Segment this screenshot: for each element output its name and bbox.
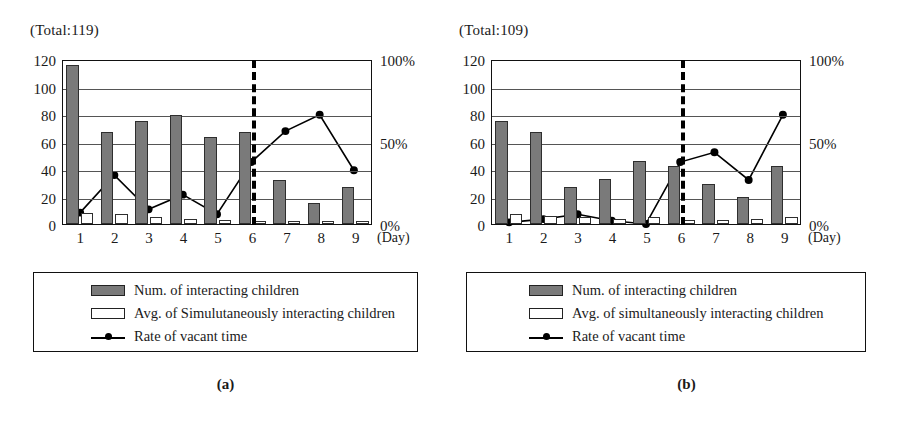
chart-panel-a: (Total:119) 0204060801001200%50%100%1234… [0, 0, 451, 421]
gridline [492, 89, 800, 90]
y-axis-tick-label: 20 [470, 191, 485, 206]
vacant-time-marker [710, 148, 718, 156]
caption-b: (b) [461, 376, 903, 393]
x-axis-title: (Day) [808, 231, 841, 245]
bar-simultaneous-children [288, 221, 300, 224]
bar-interacting-children [771, 166, 783, 224]
y-axis-tick-label: 40 [41, 164, 56, 179]
x-axis-tick-label: 7 [712, 231, 720, 246]
legend-row-vacant-time-b: Rate of vacant time [467, 325, 865, 348]
legend-a: Num. of interacting children Avg. of Sim… [33, 272, 418, 352]
gridline [492, 116, 800, 117]
y-axis-tick-label: 100 [463, 81, 486, 96]
x-axis-tick-label: 8 [747, 231, 755, 246]
x-axis-tick-label: 5 [214, 231, 222, 246]
bar-interacting-children [495, 121, 507, 224]
bar-simultaneous-children [81, 213, 93, 224]
y-axis-tick-label: 20 [41, 191, 56, 206]
figure-row: (Total:119) 0204060801001200%50%100%1234… [0, 0, 903, 421]
chart-panel-b: (Total:109) 0204060801001200%50%100%1234… [451, 0, 902, 421]
legend-swatch-filled-bar-icon [91, 285, 125, 296]
bar-simultaneous-children [356, 221, 368, 224]
phase-divider-line [252, 60, 256, 225]
bar-interacting-children [668, 166, 680, 224]
bar-interacting-children [633, 161, 645, 224]
bar-simultaneous-children [613, 219, 625, 225]
vacant-time-marker [745, 176, 753, 184]
x-axis-tick-label: 3 [574, 231, 582, 246]
x-axis-tick-label: 2 [540, 231, 548, 246]
bar-interacting-children [308, 203, 320, 224]
legend-row-interacting-children-a: Num. of interacting children [34, 279, 417, 302]
bar-simultaneous-children [322, 221, 334, 224]
legend-label-simultaneous-children: Avg. of Simulutaneously interacting chil… [134, 306, 395, 321]
x-axis-tick-label: 6 [678, 231, 686, 246]
x-axis-tick-label: 9 [352, 231, 360, 246]
bar-interacting-children [599, 179, 611, 224]
bar-interacting-children [702, 184, 714, 224]
bar-simultaneous-children [785, 217, 797, 224]
bar-simultaneous-children [219, 220, 231, 224]
y2-axis-tick-label: 100% [380, 54, 415, 69]
bar-interacting-children [530, 132, 542, 224]
x-axis-title: (Day) [377, 231, 410, 245]
y-axis-tick-label: 80 [470, 109, 485, 124]
bar-interacting-children [66, 65, 78, 225]
legend-swatch-hollow-bar-icon [529, 308, 563, 319]
vacant-time-marker [779, 111, 787, 119]
y2-axis-tick-label: 50% [809, 136, 837, 151]
bar-interacting-children [239, 132, 251, 224]
x-axis-tick-label: 1 [505, 231, 513, 246]
legend-swatch-filled-bar-icon [529, 285, 563, 296]
legend-label-interacting-children: Num. of interacting children [134, 283, 299, 298]
legend-label-vacant-time: Rate of vacant time [572, 329, 685, 344]
y-axis-tick-label: 100 [34, 81, 57, 96]
total-label-a: (Total:119) [30, 22, 99, 39]
y-axis-tick-label: 40 [470, 164, 485, 179]
x-axis-tick-label: 9 [781, 231, 789, 246]
total-label-b: (Total:109) [459, 22, 528, 39]
legend-row-simultaneous-children-b: Avg. of simultaneously interacting child… [467, 302, 865, 325]
legend-b: Num. of interacting children Avg. of sim… [466, 272, 866, 352]
y2-axis-tick-label: 50% [380, 136, 408, 151]
vacant-time-marker [281, 127, 289, 135]
caption-a: (a) [0, 376, 451, 393]
legend-row-vacant-time-a: Rate of vacant time [34, 325, 417, 348]
x-axis-tick-label: 1 [76, 231, 84, 246]
y-axis-tick-label: 0 [49, 219, 57, 234]
y2-axis-tick-label: 100% [809, 54, 844, 69]
bar-simultaneous-children [184, 219, 196, 225]
gridline [63, 116, 371, 117]
x-axis-tick-label: 5 [643, 231, 651, 246]
plot-area-a: 0204060801001200%50%100%123456789(Day) [62, 60, 372, 225]
legend-swatch-line-marker-icon [529, 331, 563, 343]
legend-label-simultaneous-children: Avg. of simultaneously interacting child… [572, 306, 823, 321]
x-axis-tick-label: 2 [111, 231, 119, 246]
bar-simultaneous-children [115, 214, 127, 224]
bar-simultaneous-children [544, 216, 556, 224]
x-axis-tick-label: 4 [609, 231, 617, 246]
bar-interacting-children [737, 197, 749, 225]
legend-swatch-line-marker-icon [91, 331, 125, 343]
y-axis-tick-label: 120 [34, 54, 57, 69]
legend-row-interacting-children-b: Num. of interacting children [467, 279, 865, 302]
y-axis-tick-label: 60 [470, 136, 485, 151]
bar-interacting-children [273, 180, 285, 224]
bar-simultaneous-children [150, 217, 162, 224]
y-axis-tick-label: 60 [41, 136, 56, 151]
phase-divider-line [681, 60, 685, 225]
x-axis-tick-label: 3 [145, 231, 153, 246]
x-axis-tick-label: 7 [283, 231, 291, 246]
gridline [63, 89, 371, 90]
legend-row-simultaneous-children-a: Avg. of Simulutaneously interacting chil… [34, 302, 417, 325]
bar-simultaneous-children [717, 220, 729, 224]
bar-simultaneous-children [510, 214, 522, 224]
bar-interacting-children [101, 132, 113, 224]
bar-simultaneous-children [648, 217, 660, 224]
bar-interacting-children [135, 121, 147, 224]
vacant-time-marker [316, 111, 324, 119]
y-axis-tick-label: 80 [41, 109, 56, 124]
legend-label-vacant-time: Rate of vacant time [134, 329, 247, 344]
legend-label-interacting-children: Num. of interacting children [572, 283, 737, 298]
bar-interacting-children [204, 137, 216, 224]
